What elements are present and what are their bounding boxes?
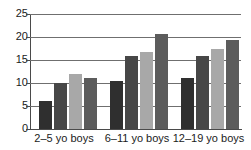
x-axis-line: [30, 129, 242, 130]
y-axis: 25 20 15 10 5 0: [0, 0, 28, 150]
bar-g3-s1: [181, 78, 194, 129]
bar-g2-s3: [140, 52, 153, 129]
bar-g1-s1: [39, 101, 52, 130]
y-tick-label-5: 5: [4, 100, 28, 111]
bar-g1-s3: [69, 74, 82, 129]
bar-g3-s2: [196, 56, 209, 129]
bar-g2-s2: [125, 56, 138, 129]
bar-g2-s1: [110, 81, 123, 129]
plot-area: [30, 14, 241, 129]
bar-g1-s4: [84, 78, 97, 129]
bar-g3-s4: [226, 40, 239, 129]
bar-g1-s2: [54, 83, 67, 129]
bar-g3-s3: [211, 49, 224, 129]
gridline-20: [30, 37, 241, 38]
bar-chart: 25 20 15 10 5 0 2: [0, 0, 251, 150]
y-tick-label-10: 10: [4, 77, 28, 88]
y-tick-label-15: 15: [4, 54, 28, 65]
y-tick-label-20: 20: [4, 31, 28, 42]
x-axis-label-group-1: 2–5 yo boys: [24, 132, 104, 145]
x-axis-label-group-3: 12–19 yo boys: [166, 132, 251, 145]
gridline-25: [30, 14, 241, 15]
y-tick-label-25: 25: [4, 8, 28, 19]
bar-g2-s4: [155, 34, 168, 129]
